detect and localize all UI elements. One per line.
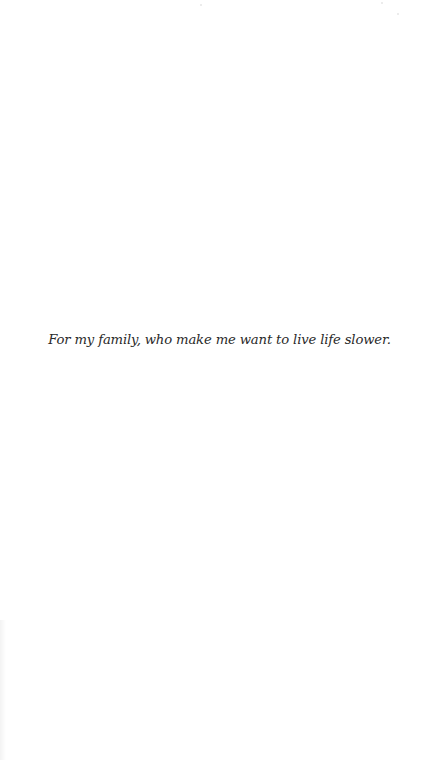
- scan-speck: [381, 2, 383, 4]
- scan-speck: [397, 13, 399, 15]
- book-page: For my family, who make me want to live …: [0, 0, 439, 771]
- scan-speck: [200, 4, 202, 6]
- scan-edge-shadow: [0, 620, 6, 760]
- dedication-text: For my family, who make me want to live …: [0, 331, 439, 349]
